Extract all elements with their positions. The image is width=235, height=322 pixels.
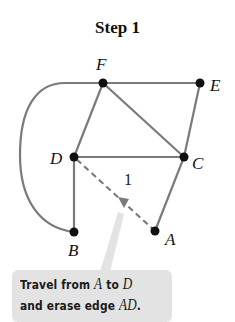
arrow-head-icon — [118, 197, 129, 208]
node-label-E: E — [210, 77, 220, 94]
edge-F-D — [74, 83, 103, 157]
node-label-D: D — [50, 150, 62, 167]
edge-E-C — [184, 83, 200, 157]
callout-pointer — [100, 212, 124, 272]
edge-A-D-dashed — [74, 157, 155, 231]
node-D — [70, 153, 79, 162]
callout-line-2: and erase edge AD. — [20, 295, 141, 316]
edge-F-C — [103, 83, 184, 157]
callout-text-fragment: . — [137, 298, 141, 313]
callout-var-AD: AD — [119, 296, 137, 313]
edge-label-AD: 1 — [124, 172, 132, 188]
node-label-B: B — [68, 242, 78, 259]
node-A — [151, 227, 160, 236]
callout-line-1: Travel from A to D — [20, 274, 141, 295]
node-label-F: F — [96, 56, 106, 73]
callout-var-D: D — [123, 275, 133, 292]
callout-text-fragment: and erase edge — [20, 298, 119, 313]
callout-text: Travel from A to D and erase edge AD. — [20, 274, 141, 316]
node-label-C: C — [192, 155, 203, 172]
callout-text-fragment: to — [102, 277, 123, 292]
callout-text-fragment: Travel from — [20, 277, 94, 292]
node-F — [99, 79, 108, 88]
node-B — [70, 228, 79, 237]
node-label-A: A — [165, 231, 175, 248]
node-E — [196, 79, 205, 88]
node-C — [180, 153, 189, 162]
edge-C-A — [155, 157, 184, 231]
